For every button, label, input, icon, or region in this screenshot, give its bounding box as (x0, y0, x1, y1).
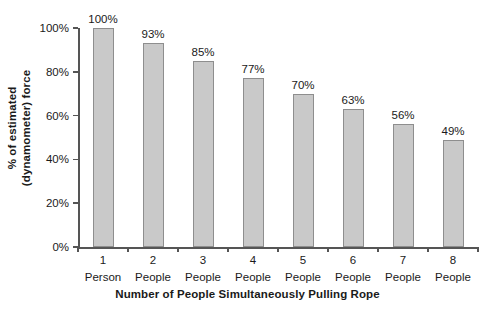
y-axis-title: % of estimated (dynamometer) force (2, 4, 36, 252)
y-axis-tick (73, 71, 78, 73)
bar-value-label: 63% (341, 94, 364, 106)
bar: 56% (393, 124, 414, 247)
y-axis-tick-label: 100% (40, 22, 69, 34)
bar: 63% (343, 109, 364, 247)
y-axis-tick-label: 40% (46, 153, 69, 165)
bar: 77% (243, 78, 264, 247)
bar-chart: % of estimated (dynamometer) force 0%20%… (0, 0, 495, 314)
bar-value-label: 100% (88, 13, 117, 25)
bar-value-label: 93% (141, 28, 164, 40)
bar: 70% (293, 94, 314, 247)
bar-value-label: 49% (441, 125, 464, 137)
y-axis-tick-label: 20% (46, 197, 69, 209)
y-axis-line (78, 28, 80, 247)
y-axis-title-line-2: (dynamometer) force (19, 70, 33, 186)
bar: 100% (93, 28, 114, 247)
x-axis-category-unit: People (423, 269, 483, 286)
x-axis-category-number: 8 (423, 252, 483, 269)
y-axis-tick-label: 0% (52, 241, 69, 253)
x-axis-title: Number of People Simultaneously Pulling … (0, 288, 495, 300)
bar-value-label: 85% (191, 46, 214, 58)
y-axis-tick-label: 60% (46, 110, 69, 122)
plot-area: 0%20%40%60%80%100% 100%93%85%77%70%63%56… (78, 28, 478, 247)
bar: 85% (193, 61, 214, 247)
y-axis-tick (73, 159, 78, 161)
y-axis-title-line-1: % of estimated (5, 87, 19, 170)
x-axis-category-label: 8People (423, 252, 483, 285)
bar-value-label: 77% (241, 63, 264, 75)
y-axis-tick (73, 27, 78, 29)
bar: 93% (143, 43, 164, 247)
bar: 49% (443, 140, 464, 247)
bar-value-label: 70% (291, 79, 314, 91)
y-axis-tick (73, 115, 78, 117)
bar-value-label: 56% (391, 109, 414, 121)
y-axis-tick-label: 80% (46, 66, 69, 78)
y-axis-tick (73, 202, 78, 204)
